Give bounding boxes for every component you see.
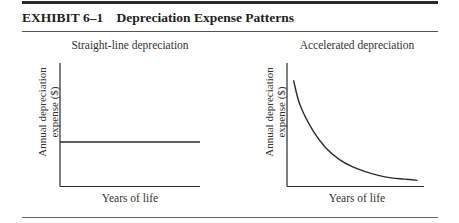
data-curve	[294, 80, 418, 180]
bottom-rule	[22, 217, 438, 218]
straight-line-plot	[60, 63, 200, 187]
plots	[0, 0, 459, 223]
accelerated-plot	[287, 63, 424, 187]
